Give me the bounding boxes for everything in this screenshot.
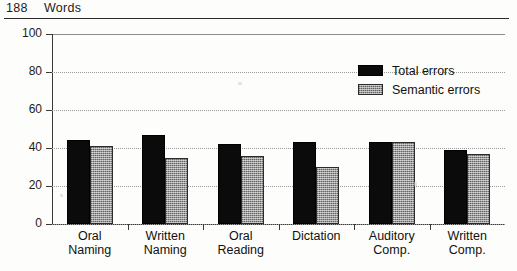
bar-total-errors bbox=[218, 144, 241, 224]
y-axis-tick bbox=[46, 186, 52, 187]
y-axis-label: 20 bbox=[8, 178, 42, 192]
x-axis-category-label: Dictation bbox=[279, 229, 355, 243]
scan-speck bbox=[60, 194, 63, 197]
gridline bbox=[52, 186, 505, 187]
header-divider bbox=[4, 18, 509, 19]
y-axis-tick bbox=[46, 34, 52, 35]
y-axis-label: 80 bbox=[8, 64, 42, 78]
book-page: 188 Words Total errors Semantic errors bbox=[0, 0, 517, 271]
bar-total-errors bbox=[142, 135, 165, 224]
legend-item: Semantic errors bbox=[358, 81, 517, 98]
bar-semantic-errors bbox=[467, 154, 490, 224]
y-axis-label: 100 bbox=[8, 26, 42, 40]
y-axis-tick bbox=[46, 148, 52, 149]
running-head: 188 Words bbox=[0, 0, 517, 22]
x-axis-category-label: WrittenNaming bbox=[128, 229, 204, 257]
y-axis-tick bbox=[46, 110, 52, 111]
page-number: 188 bbox=[6, 1, 28, 15]
y-axis-label: 0 bbox=[8, 216, 42, 230]
x-axis-category-label: OralNaming bbox=[52, 229, 128, 257]
legend-label-total-errors: Total errors bbox=[392, 64, 455, 78]
bar-chart-figure: Total errors Semantic errors 02040608010… bbox=[0, 22, 517, 271]
bar-semantic-errors bbox=[392, 142, 415, 224]
bar-total-errors bbox=[67, 140, 90, 224]
chart-legend: Total errors Semantic errors bbox=[358, 62, 517, 100]
y-axis-tick bbox=[46, 72, 52, 73]
y-axis bbox=[52, 34, 53, 225]
x-axis-category-label: WrittenComp. bbox=[430, 229, 506, 257]
running-head-title: Words bbox=[44, 1, 81, 15]
legend-item: Total errors bbox=[358, 62, 517, 79]
gridline bbox=[52, 110, 505, 111]
plot-top-border bbox=[52, 34, 505, 35]
bar-total-errors bbox=[369, 142, 392, 224]
x-axis-category-label: AuditoryComp. bbox=[354, 229, 430, 257]
y-axis-label: 40 bbox=[8, 140, 42, 154]
y-axis-label: 60 bbox=[8, 102, 42, 116]
bar-semantic-errors bbox=[316, 167, 339, 224]
bar-total-errors bbox=[293, 142, 316, 224]
x-axis-category-label: OralReading bbox=[203, 229, 279, 257]
legend-swatch-total-errors bbox=[358, 65, 383, 76]
scan-speck bbox=[238, 82, 242, 85]
legend-swatch-semantic-errors bbox=[358, 84, 383, 95]
scan-speck bbox=[414, 182, 417, 186]
plot-area: Total errors Semantic errors bbox=[52, 34, 505, 224]
legend-label-semantic-errors: Semantic errors bbox=[392, 83, 480, 97]
bar-semantic-errors bbox=[90, 146, 113, 224]
bar-semantic-errors bbox=[241, 156, 264, 224]
gridline bbox=[52, 148, 505, 149]
bar-total-errors bbox=[444, 150, 467, 224]
bar-semantic-errors bbox=[165, 158, 188, 225]
y-axis-tick bbox=[46, 224, 52, 225]
